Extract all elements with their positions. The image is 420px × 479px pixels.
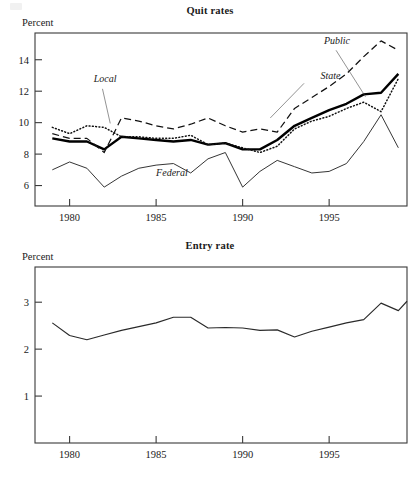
y-tick-label: 12 xyxy=(19,86,30,97)
y-tick-label: 10 xyxy=(19,117,30,128)
x-tick-label: 1995 xyxy=(319,212,340,223)
series-label-federal: Federal xyxy=(155,167,188,178)
series-label-state: State xyxy=(320,70,341,81)
series-label-public: Public xyxy=(323,35,351,46)
x-tick-label: 1980 xyxy=(59,212,80,223)
x-tick-label: 1990 xyxy=(232,449,253,460)
series-label-local: Local xyxy=(93,73,117,84)
y-tick-label: 2 xyxy=(24,344,29,355)
y-tick-label: 1 xyxy=(24,391,29,402)
leader-line-state xyxy=(270,83,304,118)
x-tick-label: 1980 xyxy=(59,449,80,460)
plot-area-quit-rates: 681012141980198519901995LocalFederalPubl… xyxy=(0,0,420,240)
y-tick-label: 6 xyxy=(24,180,29,191)
chart-panel-quit-rates: Quit rates Percent 681012141980198519901… xyxy=(0,0,420,240)
y-tick-label: 3 xyxy=(24,297,29,308)
x-tick-label: 1985 xyxy=(146,449,167,460)
chart-panel-entry-rate: Entry rate Percent 1231980198519901995 xyxy=(0,240,420,479)
x-tick-label: 1990 xyxy=(232,212,253,223)
plot-area-entry-rate: 1231980198519901995 xyxy=(0,240,420,479)
x-tick-label: 1985 xyxy=(146,212,167,223)
leader-line-local xyxy=(102,89,110,124)
y-tick-label: 14 xyxy=(19,55,30,66)
series-line-local xyxy=(52,79,398,153)
y-tick-label: 8 xyxy=(24,149,29,160)
series-line-entry-rate xyxy=(52,301,407,339)
series-line-public xyxy=(52,74,398,149)
x-tick-label: 1995 xyxy=(319,449,340,460)
